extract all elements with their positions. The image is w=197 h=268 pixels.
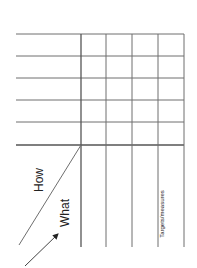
arrow-icon [25,234,58,266]
diagonal-line [19,145,81,245]
targets-measures-label: Targets/measures [159,190,165,238]
horizontal-grid-lines [16,34,184,122]
what-label: What [58,198,72,227]
how-label: How [32,168,46,192]
vertical-grid-lines [81,34,184,247]
qfd-diagram: How What Targets/measures [0,0,197,268]
